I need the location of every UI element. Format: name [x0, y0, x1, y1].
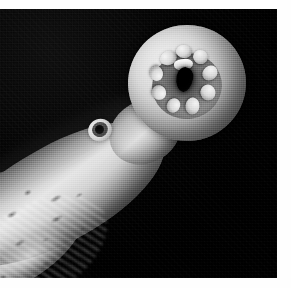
- lamprey-photograph: [0, 9, 277, 278]
- lamprey-specimen: [0, 9, 277, 278]
- screenshot-root: Black and white photograph of a lamprey …: [0, 0, 291, 288]
- eye-pupil-icon: [95, 125, 104, 134]
